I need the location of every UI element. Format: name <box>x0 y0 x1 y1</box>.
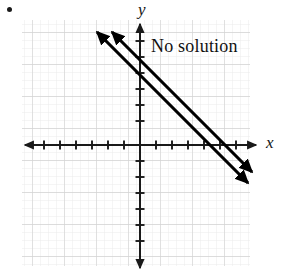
no-solution-annotation: No solution <box>151 36 238 57</box>
y-axis-label: y <box>138 1 146 18</box>
x-axis-label: x <box>266 134 274 151</box>
coordinate-plane-graph <box>0 0 285 273</box>
figure-canvas: y x No solution <box>0 0 285 273</box>
